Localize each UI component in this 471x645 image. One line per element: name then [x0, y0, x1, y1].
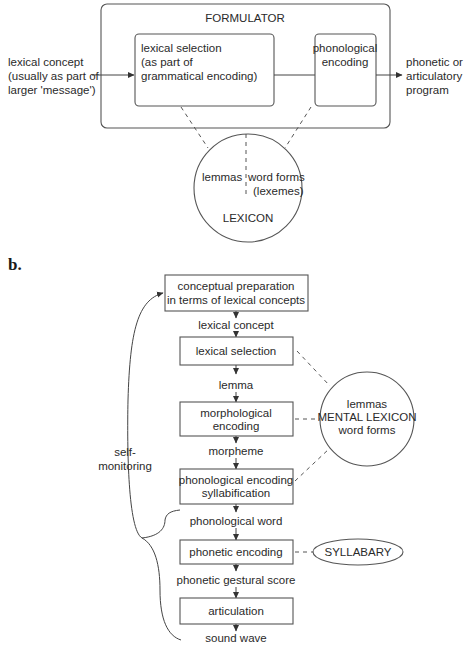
self-monitoring-brace-lower [142, 538, 181, 640]
diagram-svg: FORMULATOR lexical concept (usually as p… [0, 0, 471, 645]
lexical-selection-line-3: grammatical encoding) [141, 70, 258, 82]
phonetic-encoding-label: phonetic encoding [189, 546, 282, 558]
input-text-line-3: larger 'message') [8, 84, 96, 96]
morpheme-label: morpheme [209, 445, 264, 457]
lexical-selection-line-1: lexical selection [141, 42, 222, 54]
conceptual-preparation-line-1: conceptual preparation [178, 280, 295, 292]
formulator-title: FORMULATOR [205, 12, 284, 24]
lexical-selection-line-2: (as part of [141, 56, 194, 68]
morphological-encoding-line-2: encoding [213, 420, 260, 432]
lexicon-title: LEXICON [223, 212, 274, 224]
lemma-label: lemma [219, 379, 254, 391]
lexicon-lemmas: lemmas [202, 171, 243, 183]
self-monitoring-brace-upper [142, 510, 180, 538]
syllabary-label: SYLLABARY [325, 546, 392, 558]
panel-b-label: b. [8, 255, 22, 274]
input-text-line-1: lexical concept [8, 56, 84, 68]
output-text-line-3: program [406, 84, 449, 96]
dashed-link-phonological [295, 448, 330, 481]
phonological-encoding-b-line-2: syllabification [202, 487, 270, 499]
levelt-speech-production-diagram: FORMULATOR lexical concept (usually as p… [0, 0, 471, 645]
panel-b: b. conceptual preparation in terms of le… [8, 255, 417, 644]
output-text-line-1: phonetic or [406, 56, 463, 68]
conceptual-preparation-line-2: in terms of lexical concepts [167, 294, 305, 306]
phonetic-gestural-score-label: phonetic gestural score [177, 574, 296, 586]
lexical-concept-label: lexical concept [198, 319, 274, 331]
dashed-link-lexical-selection [297, 351, 330, 386]
mental-lexicon-title: MENTAL LEXICON [317, 411, 416, 423]
morphological-encoding-line-1: morphological [200, 407, 272, 419]
phonological-encoding-b-line-1: phonological encoding [179, 474, 293, 486]
sound-wave-label: sound wave [205, 632, 266, 644]
lexicon-word-forms-line-1: word forms [247, 171, 305, 183]
articulation-label: articulation [208, 605, 264, 617]
phonological-word-label: phonological word [190, 515, 283, 527]
output-text-line-2: articulatory [406, 70, 462, 82]
lexical-selection-label: lexical selection [196, 345, 277, 357]
phonological-encoding-line-1: phonological [313, 42, 378, 54]
self-monitoring-feedback-curve [128, 293, 163, 538]
lexicon-word-forms-line-2: (lexemes) [253, 185, 304, 197]
self-monitoring-line-2: monitoring [98, 460, 152, 472]
mental-lexicon-word-forms: word forms [338, 424, 396, 436]
panel-a: FORMULATOR lexical concept (usually as p… [8, 4, 463, 242]
mental-lexicon-lemmas: lemmas [347, 398, 388, 410]
input-text-line-2: (usually as part of [8, 70, 100, 82]
phonological-encoding-line-2: encoding [322, 56, 369, 68]
self-monitoring-line-1: self- [114, 446, 136, 458]
